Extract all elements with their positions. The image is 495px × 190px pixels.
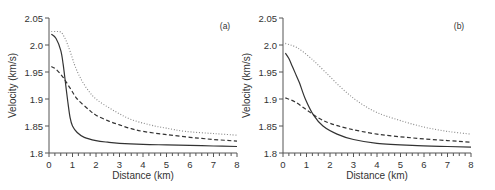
- x-tick-label: 6: [421, 159, 426, 170]
- panel-b: (b) Distance (km) Velocity (km/s) 012345…: [241, 13, 474, 182]
- x-tick-label: 3: [117, 159, 122, 170]
- series-line-solid: [51, 34, 237, 146]
- x-tick-label: 8: [234, 159, 239, 170]
- y-tick-label: 2.0: [264, 40, 277, 51]
- x-tick-label: 2: [327, 159, 332, 170]
- x-tick-label: 7: [445, 159, 450, 170]
- x-tick-label: 4: [374, 159, 379, 170]
- x-axis-title: Distance (km): [346, 170, 408, 181]
- y-tick-label: 2.05: [25, 13, 44, 24]
- series-line-dotted: [51, 31, 237, 135]
- y-axis-title: Velocity (km/s): [241, 53, 252, 118]
- x-tick-label: 0: [280, 159, 285, 170]
- y-axis-title: Velocity (km/s): [7, 53, 18, 118]
- y-tick-label: 1.85: [25, 121, 44, 132]
- series-line-dashed: [51, 67, 237, 142]
- y-tick-label: 1.9: [30, 94, 43, 105]
- x-axis-title: Distance (km): [112, 170, 174, 181]
- y-tick-label: 1.8: [30, 148, 43, 159]
- figure: (a) Distance (km) Velocity (km/s) 012345…: [0, 0, 495, 190]
- x-tick-label: 4: [140, 159, 145, 170]
- x-tick-label: 8: [468, 159, 473, 170]
- y-tick-label: 1.95: [259, 67, 278, 78]
- panel-label: (a): [220, 21, 231, 31]
- x-tick-label: 1: [70, 159, 75, 170]
- y-tick-label: 1.95: [25, 67, 44, 78]
- y-tick-label: 1.9: [264, 94, 277, 105]
- x-tick-label: 7: [211, 159, 216, 170]
- y-tick-label: 1.8: [264, 148, 277, 159]
- x-tick-label: 6: [187, 159, 192, 170]
- series-line-dotted: [285, 43, 471, 134]
- chart-canvas: (a) Distance (km) Velocity (km/s) 012345…: [0, 0, 495, 190]
- panel-a: (a) Distance (km) Velocity (km/s) 012345…: [7, 13, 240, 182]
- x-tick-label: 0: [46, 159, 51, 170]
- series-line-dashed: [285, 98, 471, 142]
- y-tick-label: 2.05: [259, 13, 278, 24]
- x-tick-label: 3: [351, 159, 356, 170]
- y-tick-label: 1.85: [259, 121, 278, 132]
- y-tick-label: 2.0: [30, 40, 43, 51]
- x-tick-label: 1: [304, 159, 309, 170]
- panel-label: (b): [454, 21, 465, 31]
- x-tick-label: 5: [398, 159, 403, 170]
- x-tick-label: 2: [93, 159, 98, 170]
- series-line-solid: [285, 53, 471, 147]
- x-tick-label: 5: [164, 159, 169, 170]
